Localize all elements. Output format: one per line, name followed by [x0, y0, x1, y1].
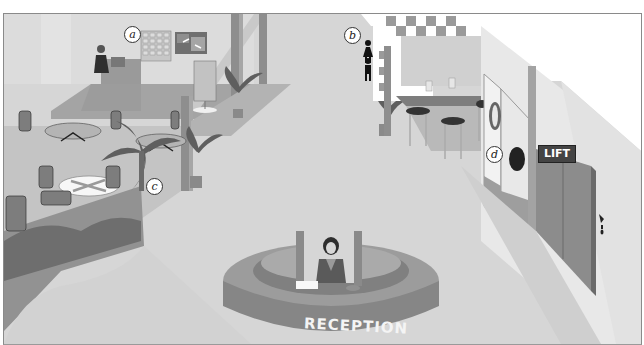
label-b: b: [344, 27, 361, 44]
label-a: a: [124, 26, 141, 43]
brochure-stand: [194, 61, 216, 101]
label-c: c: [146, 178, 163, 195]
lobby-illustration: a b c d LIFT RECEPTION: [3, 13, 642, 345]
wall-phone: [509, 147, 525, 171]
lift-sign: LIFT: [538, 145, 576, 163]
label-d: d: [486, 146, 503, 163]
lobby-scene: [4, 14, 641, 344]
